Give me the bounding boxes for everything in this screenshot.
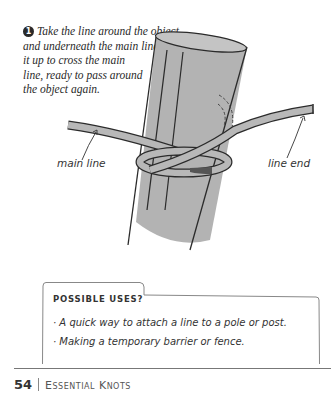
possible-uses-title: POSSIBLE USES?	[53, 294, 143, 304]
page-number: 54	[14, 377, 32, 392]
main-line-label: main line	[57, 157, 106, 169]
uses-list-item: · Making a temporary barrier or fence.	[53, 336, 245, 347]
footer-separator	[38, 378, 39, 391]
book-section-title: Essential Knots	[45, 379, 131, 392]
page-footer: 54Essential Knots	[14, 374, 131, 393]
line-end-label: line end	[268, 157, 310, 169]
footer-divider	[14, 368, 331, 369]
uses-list-item: · A quick way to attach a line to a pole…	[53, 317, 287, 328]
knot-illustration	[0, 0, 331, 280]
